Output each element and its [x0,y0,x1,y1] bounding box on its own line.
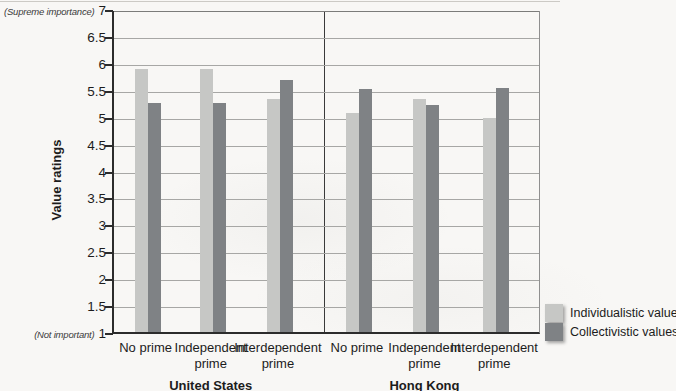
plot-area: (Not important)11.522.533.544.555.566.5(… [112,11,540,334]
y-tick-label: 6.5 [87,30,106,45]
gridline [114,119,539,120]
y-tick-label-row: 5.5 [2,84,106,99]
y-tick-label: 1.5 [87,299,106,314]
y-axis-tick [105,279,113,281]
y-axis-min-annotation: (Not important) [34,329,94,340]
y-tick-label: 4.5 [87,138,106,153]
y-axis-tick [105,225,113,227]
bar-collectivistic [280,80,293,332]
y-axis-tick [105,172,113,174]
y-tick-label-row: 5 [2,111,106,126]
bar-individualistic [346,113,359,332]
bar-collectivistic [359,89,372,332]
gridline [114,11,539,12]
y-axis-tick [105,118,113,120]
y-axis-max-annotation: (Supreme importance) [4,6,95,17]
y-axis-tick [105,64,113,66]
y-axis-tick [105,145,113,147]
legend-label-collectivistic: Collectivistic values [570,325,676,339]
bar-collectivistic [148,103,161,332]
y-tick-label-row: 6.5 [2,30,106,45]
y-axis-tick [105,198,113,200]
bar-individualistic [135,69,148,332]
gridline [114,38,539,39]
legend-swatch-collectivistic [545,323,563,341]
y-axis-tick [105,252,113,254]
gridline [114,92,539,93]
gridline [114,199,539,200]
y-axis-tick [105,37,113,39]
gridline [114,280,539,281]
y-tick-label-row: 4 [2,165,106,180]
y-tick-label-row: (Supreme importance)7 [2,3,106,18]
bar-collectivistic [496,88,509,332]
legend-label-individualistic: Individualistic values [570,306,676,320]
y-tick-label-row: 6 [2,57,106,72]
bar-individualistic [200,69,213,332]
legend-swatch-individualistic [545,304,563,322]
y-axis-tick [105,10,113,12]
y-axis-tick [105,306,113,308]
y-tick-label: 5 [98,111,106,126]
bar-individualistic [413,99,426,332]
scan-artifact-line [0,1,560,2]
legend-row-collectivistic: Collectivistic values [545,322,676,341]
y-tick-label: 3 [98,218,106,233]
y-tick-label-row: 3 [2,218,106,233]
y-tick-label-row: 2.5 [2,245,106,260]
y-tick-label: 6 [98,57,106,72]
y-tick-label: 7 [98,3,106,18]
gridline [114,173,539,174]
y-axis-tick [105,91,113,93]
y-tick-label-row: 3.5 [2,191,106,206]
y-tick-label: 4 [98,165,106,180]
bar-individualistic [483,118,496,332]
section-label-hong-kong: Hong Kong [354,378,494,391]
y-tick-label-row: 1.5 [2,299,106,314]
section-label-united-states: United States [141,378,281,391]
legend: Individualistic values Collectivistic va… [545,303,676,341]
y-tick-label-row: (Not important)1 [2,326,106,341]
bar-collectivistic [213,103,226,332]
y-tick-label: 2 [98,272,106,287]
y-tick-label: 3.5 [87,191,106,206]
y-tick-label-row: 4.5 [2,138,106,153]
y-tick-label-row: 2 [2,272,106,287]
gridline [114,253,539,254]
x-category-label: Interdependentprime [442,340,546,371]
y-tick-label: 2.5 [87,245,106,260]
legend-row-individualistic: Individualistic values [545,303,676,322]
gridline [114,146,539,147]
bar-individualistic [267,99,280,332]
gridline [114,65,539,66]
gridline [114,307,539,308]
y-tick-label: 1 [98,326,106,341]
y-axis-tick [105,333,113,335]
y-tick-label: 5.5 [87,84,106,99]
section-divider-line [324,11,325,332]
gridline [114,226,539,227]
bar-collectivistic [426,105,439,332]
bar-chart-figure: Value ratings (Not important)11.522.533.… [0,0,676,391]
